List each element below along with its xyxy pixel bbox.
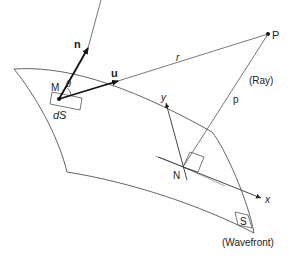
normal-line — [88, 0, 101, 48]
wavefront-surface — [14, 69, 254, 233]
label-n: n — [74, 38, 81, 50]
label-M: M — [51, 82, 59, 93]
label-p: p — [233, 94, 239, 105]
line-r — [118, 34, 268, 81]
wavefront-diagram: n u θ M dS r P (Ray) p y x N S (Wavefron… — [0, 0, 295, 266]
surface-bottom-edge — [67, 172, 254, 233]
label-wavefront: (Wavefront) — [222, 237, 274, 248]
label-ray: (Ray) — [249, 75, 273, 86]
ray-line-p — [183, 34, 268, 167]
label-x: x — [264, 194, 271, 205]
tangent-curve-N — [155, 156, 225, 186]
point-M-dot — [57, 97, 61, 101]
label-theta: θ — [66, 79, 71, 89]
label-y: y — [160, 92, 167, 103]
label-S: S — [240, 216, 247, 227]
label-N: N — [173, 170, 180, 181]
surface-element-dS — [50, 92, 82, 110]
label-u: u — [111, 67, 118, 79]
label-P: P — [272, 29, 279, 41]
y-axis-arrow — [166, 103, 187, 180]
surface-right-edge — [212, 132, 254, 233]
label-dS: dS — [53, 109, 67, 121]
